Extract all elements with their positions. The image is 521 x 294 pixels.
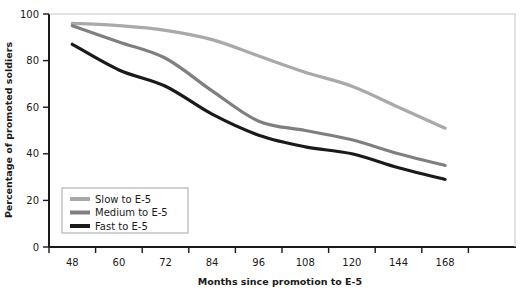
legend-label: Medium to E-5: [95, 207, 168, 218]
x-tick-label: 108: [296, 257, 315, 268]
x-tick-label: 96: [252, 257, 265, 268]
y-tick-label: 100: [20, 9, 39, 20]
y-tick-label: 60: [26, 102, 39, 113]
chart-legend: Slow to E-5Medium to E-5Fast to E-5: [62, 188, 188, 233]
y-tick-label: 80: [26, 55, 39, 66]
data-series-group: [72, 23, 445, 179]
x-axis-title: Months since promotion to E-5: [198, 276, 362, 287]
chart-figure: Percentage of promoted soldiers Months s…: [0, 0, 521, 294]
line-chart: Percentage of promoted soldiers Months s…: [0, 0, 521, 294]
x-axis-ticks: 4860728496108120144168: [49, 247, 468, 268]
x-tick-label: 72: [159, 257, 172, 268]
legend-label: Fast to E-5: [95, 221, 148, 232]
x-tick-label: 120: [342, 257, 361, 268]
y-tick-label: 40: [26, 148, 39, 159]
y-axis-ticks: 020406080100: [20, 9, 49, 253]
x-tick-label: 84: [206, 257, 219, 268]
y-tick-label: 0: [33, 242, 39, 253]
x-tick-label: 60: [113, 257, 126, 268]
legend-label: Slow to E-5: [95, 194, 151, 205]
x-tick-label: 144: [389, 257, 408, 268]
series-line-slow-to-e-5: [72, 23, 445, 128]
series-line-fast-to-e-5: [72, 44, 445, 179]
x-tick-label: 168: [436, 257, 455, 268]
y-tick-label: 20: [26, 195, 39, 206]
series-line-medium-to-e-5: [72, 26, 445, 166]
y-axis-title: Percentage of promoted soldiers: [3, 42, 14, 219]
x-tick-label: 48: [66, 257, 79, 268]
